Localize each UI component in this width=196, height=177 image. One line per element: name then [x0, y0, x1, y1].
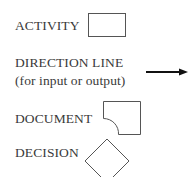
activity-rectangle-icon	[89, 14, 126, 37]
direction-arrow-icon	[146, 69, 188, 76]
decision-diamond-icon	[85, 139, 129, 177]
legend-shapes	[0, 0, 196, 177]
document-shape-icon	[104, 102, 141, 135]
